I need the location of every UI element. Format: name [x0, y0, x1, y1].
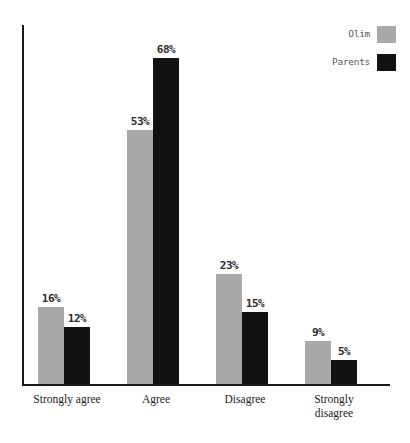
bar-olim[interactable]: 23% — [216, 274, 242, 384]
legend-swatch-olim — [377, 26, 396, 43]
legend-swatch-parents — [377, 54, 396, 71]
x-axis-line — [22, 384, 390, 386]
tick-label-line: Strongly — [281, 392, 387, 406]
legend-item-olim[interactable]: Olim — [296, 26, 396, 47]
bar-value-label: 5% — [338, 346, 350, 357]
x-axis-tick-labels: Strongly agree Agree Disagree Strongly d… — [24, 392, 390, 438]
tick-label-line: disagree — [281, 406, 387, 420]
legend-label-parents: Parents — [332, 57, 370, 67]
x-tick-label-strongly-disagree: Strongly disagree — [281, 392, 387, 421]
bar-value-label: 15% — [246, 298, 264, 309]
chart-legend: Olim Parents — [296, 26, 396, 82]
bar-olim[interactable]: 9% — [305, 341, 331, 384]
bar-value-label: 9% — [312, 327, 324, 338]
bar-parents[interactable]: 12% — [64, 327, 90, 384]
bar-value-label: 12% — [68, 313, 86, 324]
bar-parents[interactable]: 68% — [153, 58, 179, 384]
bar-value-label: 23% — [220, 260, 238, 271]
bar-value-label: 16% — [42, 293, 60, 304]
legend-item-parents[interactable]: Parents — [296, 54, 396, 75]
bar-olim[interactable]: 16% — [38, 307, 64, 384]
bar-value-label: 53% — [131, 116, 149, 127]
bar-parents[interactable]: 5% — [331, 360, 357, 384]
bar-olim[interactable]: 53% — [127, 130, 153, 384]
bar-group-disagree: 23% 15% — [216, 25, 274, 384]
bar-group-strongly-agree: 16% 12% — [38, 25, 96, 384]
bar-parents[interactable]: 15% — [242, 312, 268, 384]
legend-label-olim: Olim — [348, 29, 370, 39]
bar-value-label: 68% — [157, 44, 175, 55]
bar-group-agree: 53% 68% — [127, 25, 185, 384]
bar-chart: 16% 12% 53% 68% — [0, 0, 410, 443]
